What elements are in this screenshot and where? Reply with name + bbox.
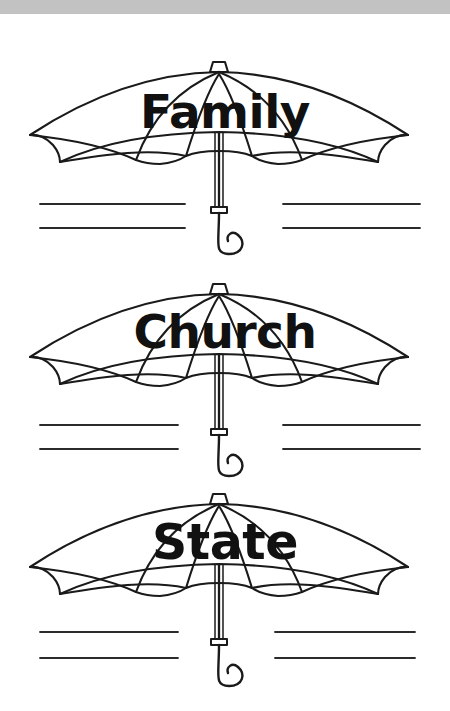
- top-gray-bar: [0, 0, 450, 14]
- umbrella-icon: [0, 266, 450, 498]
- umbrella-section-2: Church: [0, 266, 450, 498]
- umbrella-icon: [0, 480, 450, 711]
- worksheet-body: Family: [0, 14, 450, 711]
- umbrella-section-3: State: [0, 480, 450, 711]
- umbrella-section-1: Family: [0, 32, 450, 264]
- worksheet-page: Family: [0, 0, 450, 711]
- umbrella-icon: [0, 32, 450, 264]
